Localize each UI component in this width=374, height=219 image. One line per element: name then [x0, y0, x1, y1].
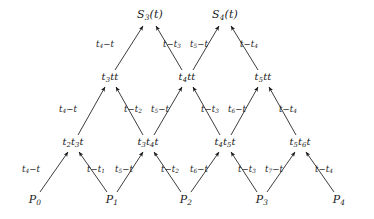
node-s4: S4(t) [212, 9, 238, 21]
edge-label-e-l1c-l2b: t−t3 [201, 105, 219, 115]
edge-label-e-l2a-s3: t4−t [96, 40, 114, 50]
edge-label-e-l2b-s4: t5−t [190, 40, 208, 50]
edge-label-e-l1b-l2a: t−t2 [124, 105, 142, 115]
edge-label-e-l1b-l2b: t5−t [151, 105, 169, 115]
edge-label-e-p1-l1b: t5−t [115, 165, 133, 175]
edge-label-e-p2-l1c: t6−t [190, 165, 208, 175]
node-l1a: t2t3t [62, 137, 83, 148]
node-p2: P2 [180, 194, 192, 206]
edge-label-e-p4-l1d: t−t4 [315, 165, 333, 175]
node-l1d: t5t6t [289, 137, 310, 148]
node-p3: P3 [256, 194, 268, 206]
edge-label-e-l2b-s3: t−t3 [163, 40, 181, 50]
node-p4: P4 [333, 194, 345, 206]
edge-label-e-l1a-l2a: t4−t [59, 105, 77, 115]
edge-label-e-l1c-l2c: t6−t [228, 105, 246, 115]
node-l1b: t3t4t [137, 137, 158, 148]
node-l2c: t5tt [255, 72, 272, 83]
node-p1: P1 [106, 194, 118, 206]
edge-e-l2a-s3 [115, 26, 143, 70]
edge-label-e-l2c-s4: t−t4 [240, 40, 258, 50]
edge-label-e-p0-l1a: t4−t [22, 165, 40, 175]
edge-label-e-p3-l1d: t7−t [265, 165, 283, 175]
edge-layer [0, 0, 374, 219]
node-s3: S3(t) [137, 9, 163, 21]
edge-e-l1a-l2a [78, 87, 105, 135]
edge-e-p0-l1a [40, 152, 68, 192]
edge-label-e-p2-l1b: t−t2 [161, 165, 179, 175]
edge-label-e-p3-l1c: t−t3 [238, 165, 256, 175]
node-l2a: t3tt [102, 72, 119, 83]
edge-label-e-p1-l1a: t−t1 [87, 165, 105, 175]
recursion-diagram: P0P1P2P3P4t2t3tt3t4tt4t5tt5t6tt3ttt4ttt5… [0, 0, 374, 219]
node-l1c: t4t5t [214, 137, 235, 148]
node-p0: P0 [29, 194, 41, 206]
node-l2b: t4tt [179, 72, 196, 83]
edge-label-e-l1d-l2c: t−t4 [279, 105, 297, 115]
